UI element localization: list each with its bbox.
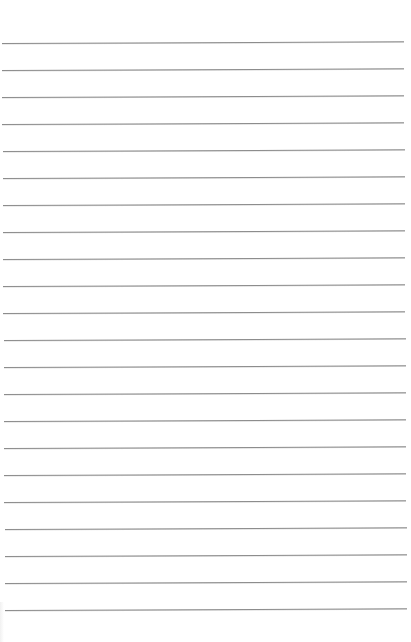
ruled-line xyxy=(2,68,404,71)
ruled-line xyxy=(4,365,406,368)
ruled-line xyxy=(3,257,405,260)
ruled-line xyxy=(4,338,406,341)
ruled-line xyxy=(5,554,407,557)
ruled-line xyxy=(3,149,405,152)
ruled-line xyxy=(4,446,406,449)
ruled-line xyxy=(2,122,404,125)
ruled-line xyxy=(4,419,406,422)
ruled-line xyxy=(4,500,406,503)
ruled-line xyxy=(3,284,405,287)
ruled-line xyxy=(3,230,405,233)
ruled-line xyxy=(4,473,406,476)
lined-paper-sheet xyxy=(0,0,411,642)
ruled-line xyxy=(2,41,404,44)
ruled-line xyxy=(2,95,404,98)
ruled-line xyxy=(5,608,407,611)
ruled-line xyxy=(5,581,407,584)
ruled-line xyxy=(3,203,405,206)
ruled-line xyxy=(5,527,407,530)
ruled-line xyxy=(4,392,406,395)
paper-edge-shadow xyxy=(0,602,4,642)
ruled-line xyxy=(3,176,405,179)
ruled-line xyxy=(3,311,405,314)
